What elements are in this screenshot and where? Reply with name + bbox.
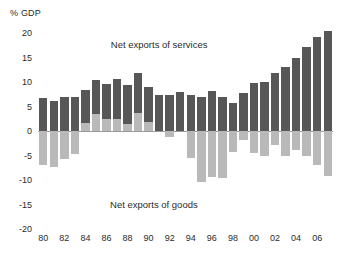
bar-goods-positive[interactable] (134, 113, 142, 131)
bar-goods-negative[interactable] (302, 131, 310, 156)
bar-services[interactable] (281, 67, 289, 131)
bar-services[interactable] (71, 97, 79, 131)
y-tick-label: 20 (22, 28, 32, 38)
bar-goods-negative[interactable] (271, 131, 279, 145)
bar-group[interactable] (39, 33, 47, 229)
bar-goods-negative[interactable] (313, 131, 321, 165)
bar-services[interactable] (250, 83, 258, 131)
bar-group[interactable] (292, 33, 300, 229)
bar-group[interactable] (250, 33, 258, 229)
bar-services[interactable] (292, 58, 300, 131)
bar-goods-negative[interactable] (229, 131, 237, 152)
y-tick-label: -15 (19, 200, 32, 210)
bar-goods-negative[interactable] (239, 131, 247, 140)
bar-services[interactable] (313, 37, 321, 131)
bar-goods-positive[interactable] (92, 114, 100, 131)
plot-area: Net exports of servicesNet exports of go… (38, 33, 333, 229)
bar-group[interactable] (218, 33, 226, 229)
x-axis-tick-labels: 8082848688909294969800020406 (38, 233, 333, 253)
bar-goods-positive[interactable] (123, 124, 131, 131)
bar-services[interactable] (176, 92, 184, 131)
bar-services[interactable] (197, 97, 205, 131)
bar-group[interactable] (81, 33, 89, 229)
bar-group[interactable] (50, 33, 58, 229)
bar-services[interactable] (218, 97, 226, 131)
bar-services[interactable] (165, 95, 173, 131)
bar-services[interactable] (50, 101, 58, 131)
y-tick-label: 0 (27, 126, 32, 136)
plot-annotation: Net exports of goods (110, 199, 198, 210)
y-tick-label: 5 (27, 102, 32, 112)
y-tick-label: 15 (22, 53, 32, 63)
bar-group[interactable] (92, 33, 100, 229)
bar-goods-negative[interactable] (71, 131, 79, 154)
x-tick-label: 90 (144, 233, 154, 243)
bar-services[interactable] (187, 95, 195, 131)
bar-group[interactable] (260, 33, 268, 229)
bar-services[interactable] (324, 31, 332, 131)
x-tick-label: 06 (312, 233, 322, 243)
bar-goods-negative[interactable] (281, 131, 289, 156)
y-axis-title: % GDP (10, 8, 41, 18)
x-tick-label: 00 (249, 233, 259, 243)
bar-group[interactable] (229, 33, 237, 229)
x-tick-label: 04 (291, 233, 301, 243)
y-axis-tick-labels: 20151050-5-10-15-20 (0, 33, 36, 229)
x-tick-label: 98 (228, 233, 238, 243)
x-tick-label: 02 (270, 233, 280, 243)
bar-goods-positive[interactable] (102, 119, 110, 131)
bar-goods-negative[interactable] (50, 131, 58, 167)
x-tick-label: 94 (186, 233, 196, 243)
bar-goods-positive[interactable] (81, 123, 89, 131)
y-tick-label: 10 (22, 77, 32, 87)
x-tick-label: 96 (207, 233, 217, 243)
bar-goods-positive[interactable] (144, 122, 152, 131)
bar-services[interactable] (302, 47, 310, 131)
bar-services[interactable] (208, 91, 216, 131)
bar-goods-negative[interactable] (218, 131, 226, 178)
chart-container: % GDP 20151050-5-10-15-20 Net exports of… (0, 0, 341, 270)
bar-group[interactable] (60, 33, 68, 229)
bar-services[interactable] (239, 93, 247, 131)
bar-group[interactable] (71, 33, 79, 229)
bar-group[interactable] (271, 33, 279, 229)
x-tick-label: 82 (59, 233, 69, 243)
bar-services[interactable] (155, 95, 163, 131)
bar-group[interactable] (281, 33, 289, 229)
bar-group[interactable] (197, 33, 205, 229)
bar-group[interactable] (302, 33, 310, 229)
y-tick-label: -5 (24, 151, 32, 161)
bar-group[interactable] (239, 33, 247, 229)
bar-services[interactable] (39, 98, 47, 131)
x-tick-label: 80 (38, 233, 48, 243)
y-tick-label: -20 (19, 224, 32, 234)
bar-group[interactable] (208, 33, 216, 229)
bar-goods-negative[interactable] (250, 131, 258, 153)
bar-goods-negative[interactable] (60, 131, 68, 159)
bar-goods-negative[interactable] (197, 131, 205, 182)
bar-goods-negative[interactable] (208, 131, 216, 177)
x-tick-label: 88 (123, 233, 133, 243)
bar-goods-negative[interactable] (39, 131, 47, 165)
bar-goods-negative[interactable] (260, 131, 268, 156)
bar-goods-negative[interactable] (187, 131, 195, 158)
x-tick-label: 86 (101, 233, 111, 243)
bar-services[interactable] (271, 73, 279, 131)
bar-services[interactable] (60, 97, 68, 131)
x-tick-label: 92 (165, 233, 175, 243)
plot-annotation: Net exports of services (111, 39, 208, 50)
bar-group[interactable] (313, 33, 321, 229)
bar-group[interactable] (324, 33, 332, 229)
bar-goods-negative[interactable] (292, 131, 300, 150)
bar-services[interactable] (229, 103, 237, 131)
bar-services[interactable] (260, 82, 268, 131)
y-tick-label: -10 (19, 175, 32, 185)
x-tick-label: 84 (80, 233, 90, 243)
bar-goods-positive[interactable] (113, 119, 121, 131)
bar-goods-negative[interactable] (165, 131, 173, 137)
bar-goods-negative[interactable] (324, 131, 332, 176)
